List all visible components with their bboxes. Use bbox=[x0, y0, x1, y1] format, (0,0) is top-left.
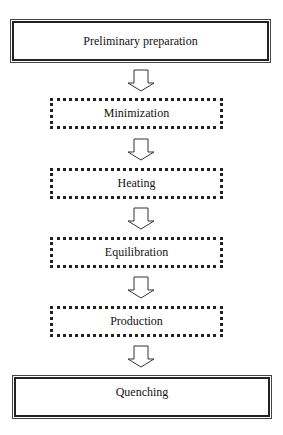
down-arrow-icon bbox=[126, 345, 156, 369]
step-label: Preliminary preparation bbox=[83, 34, 197, 49]
step-quenching: Quenching bbox=[14, 377, 270, 417]
down-arrow-icon bbox=[126, 207, 156, 231]
step-label: Equilibration bbox=[105, 245, 168, 260]
step-equilibration: Equilibration bbox=[50, 237, 223, 268]
step-label: Quenching bbox=[116, 385, 169, 400]
step-preliminary-preparation: Preliminary preparation bbox=[12, 21, 269, 61]
down-arrow-icon bbox=[126, 69, 156, 93]
down-arrow-icon bbox=[126, 276, 156, 300]
step-heating: Heating bbox=[50, 168, 223, 199]
step-minimization: Minimization bbox=[50, 98, 223, 129]
step-label: Heating bbox=[118, 176, 156, 191]
down-arrow-icon bbox=[126, 138, 156, 162]
step-production: Production bbox=[50, 306, 223, 337]
step-label: Minimization bbox=[104, 106, 169, 121]
step-label: Production bbox=[110, 314, 163, 329]
